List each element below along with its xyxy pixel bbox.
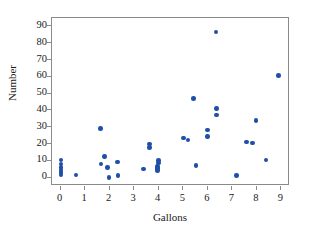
data-point [191,96,196,101]
data-point [244,140,249,145]
x-axis-tick [182,186,183,190]
x-axis-tick-label: 8 [246,193,266,204]
data-point [107,175,112,180]
x-axis-tick-label: 0 [50,193,70,204]
data-point [194,163,199,168]
y-axis-tick-label: 20 [7,138,47,149]
x-axis-tick [84,186,85,190]
data-point [141,167,146,172]
data-point [115,160,120,165]
x-axis-tick [133,186,134,190]
data-point [214,30,219,35]
data-point [181,136,186,141]
x-axis-tick [207,186,208,190]
y-axis-tick-label: 90 [7,20,47,31]
data-point [147,145,152,150]
x-axis-tick-label: 7 [221,193,241,204]
x-axis-tick [231,186,232,190]
x-axis-tick [109,186,110,190]
x-axis-tick [158,186,159,190]
data-points-layer [52,18,288,184]
x-axis-tick-label: 4 [148,193,168,204]
scatter-plot-figure: 0102030405060708090 0123456789 Number Ga… [0,0,317,241]
x-axis-tick-label: 9 [270,193,290,204]
data-point [276,73,281,78]
data-point [214,106,219,111]
y-axis-tick-label: 80 [7,37,47,48]
y-axis-tick-label: 10 [7,154,47,165]
data-point [105,165,110,170]
x-axis-tick [256,186,257,190]
x-axis-title: Gallons [51,211,289,223]
data-point [99,162,104,167]
data-point [155,168,160,173]
data-point [102,154,107,159]
data-point [98,126,103,131]
x-axis-tick-label: 6 [197,193,217,204]
data-point [59,173,64,178]
data-point [250,141,255,146]
x-axis-tick-label: 2 [99,193,119,204]
data-point [116,173,121,178]
data-point [234,173,239,178]
plot-area [51,17,289,185]
data-point [205,128,210,133]
x-axis-tick [280,186,281,190]
data-point [74,173,79,178]
x-axis-tick-label: 1 [74,193,94,204]
x-axis-tick-label: 3 [123,193,143,204]
x-axis-tick-label: 5 [172,193,192,204]
y-axis-title: Number [6,53,18,113]
x-axis-tick [60,186,61,190]
data-point [264,158,269,163]
y-axis-tick-label: 0 [7,171,47,182]
y-axis-tick-label: 30 [7,121,47,132]
data-point [186,138,191,143]
data-point [205,134,210,139]
data-point [214,113,219,118]
data-point [254,118,259,123]
